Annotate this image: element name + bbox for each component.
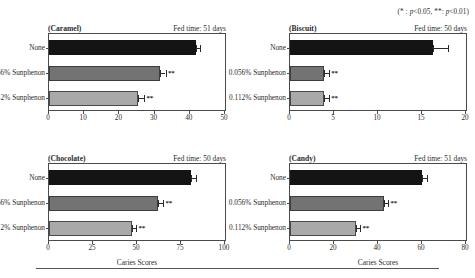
bar-1: [49, 66, 160, 81]
y-tick-label: None: [270, 42, 286, 51]
error-bar-cap: [163, 200, 164, 207]
x-axis-title: Caries Scores: [48, 258, 226, 267]
error-bar-cap: [160, 70, 161, 77]
x-axis-title: Caries Scores: [289, 258, 467, 267]
bottom-divider: [36, 268, 439, 269]
error-bar-cap: [324, 70, 325, 77]
plot-area: None0.056% Sunphenon0.112% Sunphenon****: [243, 163, 467, 241]
significance-marker: **: [391, 199, 397, 207]
significance-marker: **: [139, 224, 145, 232]
panel-title: (Caramel): [48, 24, 81, 33]
x-axis: 020406080: [289, 241, 467, 257]
plot-box: ****: [289, 33, 467, 111]
x-tick-label: 15: [417, 114, 424, 122]
significance-marker: **: [331, 69, 337, 77]
plot-area: None0.056% Sunphenon0.112% Sunphenon****: [2, 163, 226, 241]
x-axis: 0255075100: [48, 241, 226, 257]
y-axis-labels: None0.056% Sunphenon0.112% Sunphenon: [243, 33, 289, 111]
y-tick-label: None: [29, 172, 45, 181]
panel-title: (Chocolate): [48, 154, 86, 163]
error-bar-cap: [384, 200, 385, 207]
error-bar-cap: [196, 45, 197, 52]
bar-0: [49, 170, 191, 185]
y-axis-labels: None0.056% Sunphenon0.112% Sunphenon: [243, 163, 289, 241]
x-tick-label: 10: [80, 114, 87, 122]
plot-box: ****: [289, 163, 467, 241]
bar-1: [290, 196, 384, 211]
x-tick-label: 20: [115, 114, 122, 122]
panel-header: (Chocolate)Fed time: 50 days: [2, 152, 226, 163]
error-bar-cap: [132, 225, 133, 232]
panel-caramel: (Caramel)Fed time: 51 daysNone0.056% Sun…: [2, 22, 226, 122]
error-bar-cap: [329, 95, 330, 102]
caries-scores-figure: (* : p<0.05, **: p<0.01) (Caramel)Fed ti…: [0, 0, 475, 278]
panel-title: (Candy): [289, 154, 316, 163]
x-tick-label: 0: [46, 114, 50, 122]
error-bar-cap: [356, 225, 357, 232]
x-tick-label: 10: [373, 114, 380, 122]
fed-time-label: Fed time: 51 days: [173, 24, 226, 33]
double-star: **: [434, 8, 441, 16]
panel-biscuit: (Biscuit)Fed time: 50 daysNone0.056% Sun…: [243, 22, 467, 122]
x-tick-label: 0: [287, 244, 291, 252]
x-tick-label: 40: [185, 114, 192, 122]
significance-marker: **: [331, 94, 337, 102]
y-tick-label: 0.056% Sunphenon: [229, 198, 286, 207]
panel-title: (Biscuit): [289, 24, 316, 33]
y-tick-label: 0.056% Sunphenon: [0, 68, 45, 77]
error-bar-cap: [329, 70, 330, 77]
x-tick-label: 50: [132, 244, 139, 252]
plot-box: ****: [48, 163, 226, 241]
significance-marker: **: [362, 224, 368, 232]
error-bar-cap: [427, 175, 428, 182]
bar-0: [290, 40, 433, 55]
x-tick-label: 100: [219, 244, 230, 252]
y-tick-label: 0.112% Sunphenon: [0, 93, 45, 102]
significance-marker: **: [147, 94, 153, 102]
y-tick-label: None: [270, 172, 286, 181]
fed-time-label: Fed time: 50 days: [173, 154, 226, 163]
x-tick-label: 20: [461, 114, 468, 122]
x-tick-label: 75: [176, 244, 183, 252]
panel-header: (Candy)Fed time: 51 days: [243, 152, 467, 163]
y-tick-label: 0.112% Sunphenon: [229, 93, 286, 102]
error-bar-cap: [388, 200, 389, 207]
y-tick-label: 0.112% Sunphenon: [0, 223, 45, 232]
x-tick-label: 25: [88, 244, 95, 252]
y-tick-label: 0.056% Sunphenon: [0, 198, 45, 207]
x-tick-label: 30: [150, 114, 157, 122]
plot-box: ****: [48, 33, 226, 111]
x-tick-label: 0: [46, 244, 50, 252]
bar-1: [290, 66, 324, 81]
panel-header: (Caramel)Fed time: 51 days: [2, 22, 226, 33]
panel-candy: (Candy)Fed time: 51 daysNone0.056% Sunph…: [243, 152, 467, 252]
error-bar-cap: [166, 70, 167, 77]
bar-1: [49, 196, 158, 211]
y-axis-labels: None0.056% Sunphenon0.112% Sunphenon: [2, 163, 48, 241]
error-bar-cap: [448, 45, 449, 52]
y-tick-label: 0.112% Sunphenon: [229, 223, 286, 232]
error-bar-cap: [136, 225, 137, 232]
error-bar-cap: [191, 175, 192, 182]
x-tick-label: 60: [417, 244, 424, 252]
fed-time-label: Fed time: 50 days: [414, 24, 467, 33]
x-tick-label: 5: [331, 114, 335, 122]
x-axis: 05101520: [289, 111, 467, 127]
error-bar-cap: [200, 45, 201, 52]
x-tick-label: 40: [373, 244, 380, 252]
x-tick-label: 80: [461, 244, 468, 252]
y-tick-label: None: [29, 42, 45, 51]
x-tick-label: 0: [287, 114, 291, 122]
error-bar-cap: [196, 175, 197, 182]
plot-area: None0.056% Sunphenon0.112% Sunphenon****: [243, 33, 467, 111]
x-axis: 01020304050: [48, 111, 226, 127]
single-star: *: [400, 8, 404, 16]
significance-marker: **: [166, 199, 172, 207]
significance-marker: **: [168, 69, 174, 77]
y-tick-label: 0.056% Sunphenon: [229, 68, 286, 77]
error-bar-cap: [422, 175, 423, 182]
bar-2: [290, 91, 324, 106]
bar-0: [49, 40, 196, 55]
bar-2: [290, 221, 356, 236]
bar-2: [49, 91, 138, 106]
